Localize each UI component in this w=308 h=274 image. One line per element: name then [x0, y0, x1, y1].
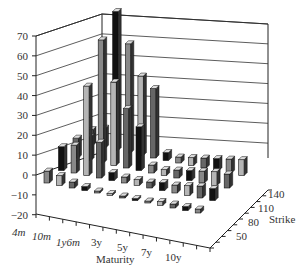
bar	[96, 139, 105, 178]
y-tick-label: 10	[17, 149, 29, 161]
maturity-tick-label: 10y	[165, 251, 182, 263]
maturity-tick-label: 3y	[91, 236, 103, 248]
bar	[224, 171, 233, 188]
maturity-tick-label: 10m	[32, 230, 51, 242]
y-axis-ticks: 706050403020100−10−20	[11, 30, 36, 221]
bar	[123, 105, 131, 168]
bar	[44, 168, 53, 183]
y-tick-label: 20	[17, 129, 29, 141]
bar	[186, 168, 195, 181]
bar	[201, 155, 210, 168]
bar	[195, 206, 204, 213]
bar	[71, 142, 80, 173]
maturity-axis-title: Maturity	[96, 253, 135, 265]
bar	[94, 188, 103, 193]
y-tick-label: 30	[17, 109, 29, 121]
bar	[210, 186, 219, 201]
y-tick-label: 60	[17, 50, 29, 62]
maturity-tick-label: 7y	[141, 246, 153, 258]
bar	[239, 157, 248, 176]
bar	[226, 156, 235, 173]
maturity-tick-label: 5y	[117, 241, 129, 253]
maturity-tick-label: 4m	[12, 226, 26, 238]
bar	[170, 201, 179, 208]
bar	[145, 198, 154, 203]
strike-axis-title: Strike	[269, 213, 295, 225]
bar	[185, 183, 194, 196]
bar	[84, 83, 93, 175]
bar	[183, 204, 192, 211]
y-tick-label: 0	[23, 169, 29, 181]
y-tick-label: 40	[17, 90, 29, 102]
bar	[136, 124, 145, 171]
bar	[109, 170, 118, 181]
bar	[159, 180, 168, 191]
bar	[59, 144, 68, 171]
bar	[214, 156, 223, 171]
bar	[174, 167, 183, 178]
bar	[161, 167, 170, 176]
bar	[134, 177, 143, 186]
bar	[172, 182, 181, 193]
maturity-tick-label: 1y6m	[56, 236, 80, 248]
bar	[199, 168, 208, 183]
bar	[212, 169, 221, 186]
bar	[157, 199, 166, 206]
bar	[132, 196, 141, 201]
3d-bar-chart: 706050403020100−10−20 4m10m1y6m3y5y7y10y…	[0, 0, 308, 274]
bar	[82, 184, 91, 191]
bar	[176, 154, 185, 163]
strike-tick-label: 50	[236, 230, 248, 242]
bar	[151, 86, 160, 159]
bar	[188, 155, 197, 166]
bar	[107, 191, 116, 196]
y-tick-label: 50	[17, 70, 29, 82]
bar	[197, 183, 206, 198]
bar	[163, 150, 172, 161]
bar	[111, 79, 120, 165]
y-tick-label: −20	[11, 209, 29, 221]
bars	[44, 9, 247, 214]
bar	[149, 162, 158, 173]
y-tick-label: 70	[17, 30, 29, 42]
strike-tick-label: 140	[268, 188, 285, 200]
bar	[122, 174, 131, 183]
bar	[147, 179, 156, 188]
bar	[57, 173, 66, 186]
strike-tick-label: 80	[248, 216, 260, 228]
bar	[69, 179, 78, 188]
y-tick-label: −10	[11, 189, 29, 201]
bar	[120, 193, 129, 198]
